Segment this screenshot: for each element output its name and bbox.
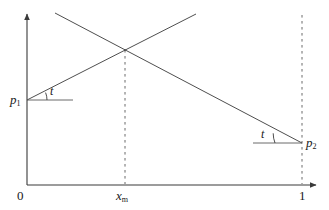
axis-tick-label-one: 1 [299,189,306,202]
descending-line [55,13,302,143]
label-p2: p2 [306,136,317,151]
label-angle-t-right: t [261,128,264,140]
label-angle-t-left: t [50,85,53,97]
label-p1-sub: 1 [17,99,21,108]
axis-tick-label-xm: xm [116,189,128,204]
geometric-figure: p1 p2 t t 0 xm 1 [0,0,329,210]
label-angle-t-right-text: t [261,127,264,141]
label-p2-sub: 2 [313,142,317,151]
label-p1: p1 [10,93,21,108]
angle-arc-p1 [46,93,47,100]
angle-arc-p2 [273,133,275,143]
axis-tick-label-zero: 0 [17,189,24,202]
figure-canvas [0,0,329,210]
axis-tick-label-xm-sub: m [122,195,128,204]
label-angle-t-left-text: t [50,84,53,98]
intersection-point [124,49,125,50]
